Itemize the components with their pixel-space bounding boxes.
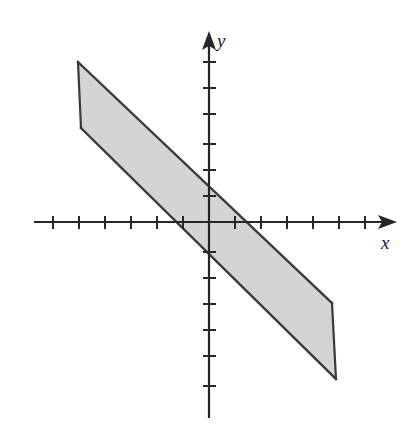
graph-figure: y x — [0, 0, 409, 430]
x-axis-label: x — [380, 232, 390, 253]
upper-boundary-line — [78, 62, 332, 303]
y-axis-label: y — [215, 30, 226, 51]
coordinate-plane-svg: y x — [0, 0, 409, 430]
shaded-region-band — [78, 62, 336, 379]
